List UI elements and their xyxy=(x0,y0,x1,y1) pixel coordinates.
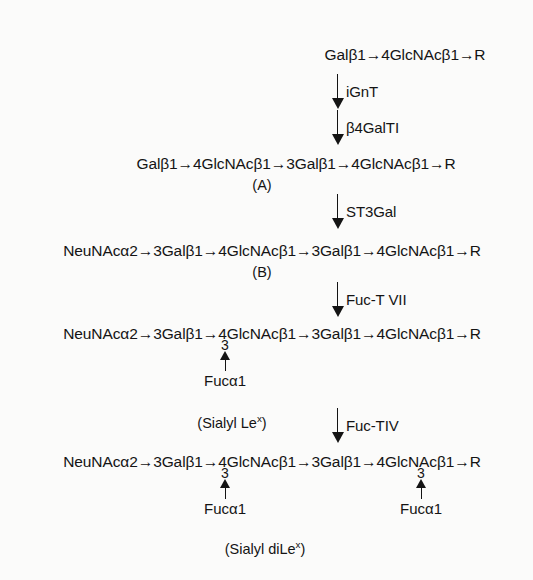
caption-sialyl-lex: (Sialyl Lex) xyxy=(197,415,266,431)
enzyme-label-st3gal: ST3Gal xyxy=(344,203,396,220)
enzyme-label-fuct7: Fuc-T VII xyxy=(344,291,407,308)
branch-digit: 3 xyxy=(376,468,466,479)
branch-digit: 3 xyxy=(180,340,270,351)
branch-label: Fucα1 xyxy=(376,500,466,517)
up-arrow-icon xyxy=(219,479,232,499)
down-arrow-icon xyxy=(331,194,344,228)
up-arrow-icon xyxy=(415,479,428,499)
branch-lex-fuc: 3 Fucα1 xyxy=(180,340,270,389)
branch-digit: 3 xyxy=(180,468,270,479)
figure-page: ——— —————— ——— Galβ1→4GlcNAcβ1→R iGnT β4… xyxy=(0,0,533,580)
formula-a: Galβ1→4GlcNAcβ1→3Galβ1→4GlcNAcβ1→R xyxy=(136,155,455,173)
caption-sialyl-lex-tail: ) xyxy=(262,415,267,431)
caption-sialyl-dilex: (Sialyl diLex) xyxy=(225,541,306,557)
down-arrow-icon xyxy=(331,282,344,316)
enzyme-label-ignt: iGnT xyxy=(344,83,378,100)
down-arrow-icon xyxy=(331,74,344,108)
formula-b-label: (B) xyxy=(252,264,271,280)
running-head-remnant: ——— —————— ——— xyxy=(300,0,533,6)
down-arrow-icon xyxy=(331,408,344,442)
up-arrow-icon xyxy=(219,351,232,371)
formula-a-label: (A) xyxy=(252,177,271,193)
branch-label: Fucα1 xyxy=(180,372,270,389)
enzyme-step-fuct7: Fuc-T VII xyxy=(331,282,407,316)
formula-b: NeuNAcα2→3Galβ1→4GlcNAcβ1→3Galβ1→4GlcNAc… xyxy=(63,242,481,260)
branch-dilex-fuc-1: 3 Fucα1 xyxy=(180,468,270,517)
formula-sialyl-lex: NeuNAcα2→3Galβ1→4GlcNAcβ1→3Galβ1→4GlcNAc… xyxy=(63,325,481,343)
branch-dilex-fuc-2: 3 Fucα1 xyxy=(376,468,466,517)
enzyme-step-fuct4: Fuc-TIV xyxy=(331,408,399,442)
caption-sialyl-lex-text: (Sialyl Le xyxy=(197,415,257,431)
enzyme-label-fuct4: Fuc-TIV xyxy=(344,417,399,434)
formula-start: Galβ1→4GlcNAcβ1→R xyxy=(325,46,486,64)
enzyme-step-ignt: iGnT xyxy=(331,74,378,108)
enzyme-step-st3gal: ST3Gal xyxy=(331,194,396,228)
caption-sialyl-dilex-tail: ) xyxy=(301,541,306,557)
caption-sialyl-dilex-text: (Sialyl diLe xyxy=(225,541,296,557)
enzyme-step-b4galti: β4GalTI xyxy=(331,110,399,144)
enzyme-label-b4galti: β4GalTI xyxy=(344,119,399,136)
branch-label: Fucα1 xyxy=(180,500,270,517)
down-arrow-icon xyxy=(331,110,344,144)
